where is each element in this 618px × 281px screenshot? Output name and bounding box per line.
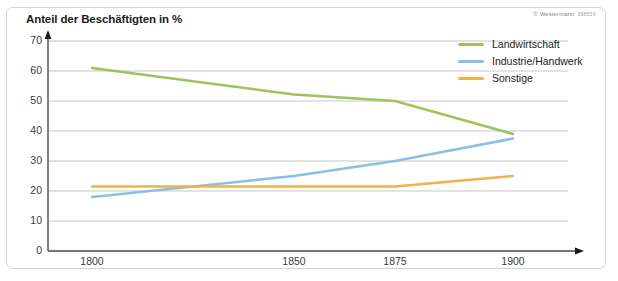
y-tick-label: 50 (8, 94, 42, 106)
legend-swatch-sonstige (458, 77, 484, 80)
x-tick-label: 1875 (365, 255, 425, 267)
legend-swatch-industrie-handwerk (458, 60, 484, 63)
y-tick-label: 70 (8, 34, 42, 46)
series-industrie-handwerk (92, 139, 513, 198)
legend-item-industrie-handwerk: Industrie/Handwerk (458, 55, 582, 67)
legend-item-landwirtschaft: Landwirtschaft (458, 38, 560, 50)
y-tick-label: 40 (8, 124, 42, 136)
y-tick-label: 10 (8, 214, 42, 226)
x-tick-label: 1900 (483, 255, 543, 267)
legend-label-sonstige: Sonstige (492, 72, 533, 84)
y-tick-label: 0 (8, 244, 42, 256)
legend-swatch-landwirtschaft (458, 43, 484, 46)
legend-label-industrie-handwerk: Industrie/Handwerk (492, 55, 582, 67)
y-tick-label: 20 (8, 184, 42, 196)
series-sonstige (92, 176, 513, 187)
x-tick-label: 1800 (62, 255, 122, 267)
legend-label-landwirtschaft: Landwirtschaft (492, 38, 560, 50)
legend-item-sonstige: Sonstige (458, 72, 533, 84)
y-tick-label: 30 (8, 154, 42, 166)
x-tick-label: 1850 (264, 255, 324, 267)
y-tick-label: 60 (8, 64, 42, 76)
x-axis (48, 248, 584, 255)
y-axis (45, 30, 52, 251)
